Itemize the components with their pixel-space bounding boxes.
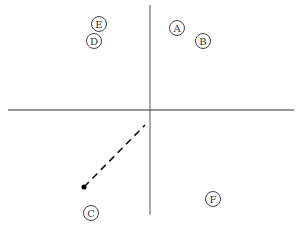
diagram-svg: E D A B C F (0, 0, 302, 229)
dashed-line (84, 125, 145, 187)
svg-text:D: D (90, 36, 98, 47)
point-dot (82, 185, 87, 190)
point-label-b: B (196, 34, 211, 49)
svg-text:A: A (172, 23, 181, 34)
point-label-c: C (84, 206, 99, 221)
svg-text:F: F (210, 194, 217, 205)
point-label-a: A (170, 21, 185, 36)
diagram-canvas: E D A B C F (0, 0, 302, 229)
point-label-d: D (87, 34, 102, 49)
svg-text:B: B (199, 36, 206, 47)
svg-text:E: E (95, 19, 102, 30)
point-label-e: E (92, 17, 107, 32)
point-label-f: F (206, 192, 221, 207)
svg-text:C: C (87, 208, 95, 219)
